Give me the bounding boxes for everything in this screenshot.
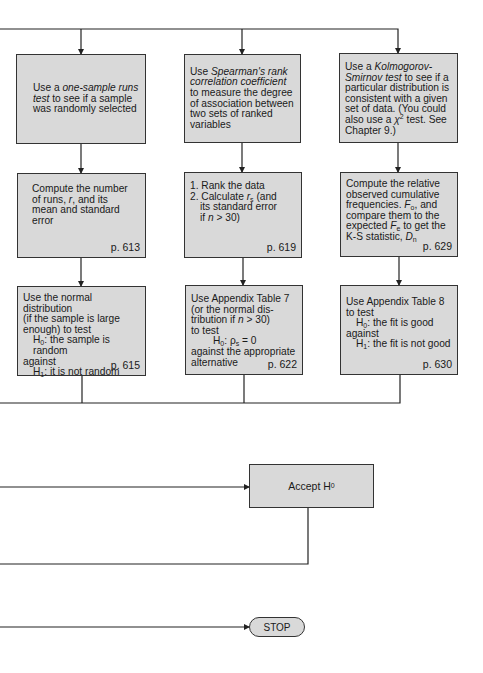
text: Use a <box>33 82 62 93</box>
text: expected <box>346 220 390 231</box>
text: > 30) <box>244 314 270 325</box>
spearman-compute-box: 1. Rank the data 2. Calculate rs (and it… <box>184 172 302 258</box>
text: Use a <box>345 61 374 72</box>
page-ref: p. 613 <box>111 242 140 253</box>
text: > 30) <box>214 212 240 223</box>
spearman-box: Use Spearman's rank correlation coeffici… <box>184 54 301 143</box>
ks-hypothesis-box: Use Appendix Table 8 to test H0: the fit… <box>340 285 458 375</box>
text: , and its <box>72 194 108 205</box>
text: : it is not random <box>44 366 119 377</box>
page-ref: p. 629 <box>423 241 452 252</box>
text: Use Appendix Table 8 <box>346 297 452 308</box>
stop-terminal: STOP <box>249 617 305 637</box>
text: Use <box>190 66 211 77</box>
accept-label: Accept H <box>288 481 331 492</box>
text: to measure the degree of association bet… <box>190 87 294 130</box>
text: to see if a sample was randomly selected <box>33 93 137 115</box>
runs-compute-box: Compute the number of runs, r, and its m… <box>17 173 146 258</box>
text: : ρ <box>224 335 235 346</box>
step-2: 2. Calculate <box>190 191 247 202</box>
text: frequencies. <box>346 199 404 210</box>
runs-test-box: Use a one-sample runs test to see if a s… <box>16 54 146 144</box>
text: against the appropriate <box>191 347 297 358</box>
variable: D <box>405 231 412 242</box>
accept-h0-box: Accept H0 <box>249 464 374 508</box>
stop-label: STOP <box>263 622 290 633</box>
runs-hypothesis-box: Use the normal distribution (if the samp… <box>17 286 146 376</box>
ks-test-box: Use a Kolmogorov-Smirnov test to see if … <box>339 53 458 143</box>
page-ref: p. 615 <box>111 360 140 371</box>
page-ref: p. 619 <box>267 242 296 253</box>
text: error <box>32 216 140 227</box>
ks-compute-box: Compute the relative observed cumulative… <box>340 172 458 257</box>
text: to get the <box>400 220 445 231</box>
text: K-S statistic, <box>346 231 405 242</box>
text: Use the normal distribution <box>23 293 140 314</box>
text: : the sample is random <box>33 334 110 356</box>
text: = 0 <box>239 335 256 346</box>
text: : the fit is not good <box>367 338 450 349</box>
text: Use Appendix Table 7 <box>191 294 297 305</box>
text: if <box>200 212 208 223</box>
spearman-hypothesis-box: Use Appendix Table 7 (or the normal dis-… <box>185 285 303 375</box>
text: tribution if <box>191 314 238 325</box>
text: (and <box>254 191 277 202</box>
text: , and <box>414 199 437 210</box>
text: Compute the relative <box>346 179 452 190</box>
text: : the fit is good <box>367 317 433 328</box>
text: of runs, <box>32 194 69 205</box>
subscript: n <box>413 236 417 243</box>
page-ref: p. 622 <box>268 359 297 370</box>
page-ref: p. 630 <box>423 359 452 370</box>
